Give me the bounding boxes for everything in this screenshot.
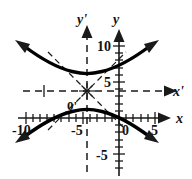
x-axis-label: x [175, 111, 183, 126]
x-tick-label--10: -10 [12, 123, 31, 138]
x-tick-label-5: 5 [151, 123, 158, 138]
x-axis [18, 112, 171, 124]
y-tick-label-10: 10 [97, 39, 111, 54]
hyperbola-lower-branch [15, 109, 159, 143]
origin-prime-label: 0' [67, 98, 77, 113]
upper-branch-left-arrowhead [15, 40, 30, 53]
y-axis-arrowhead [114, 29, 125, 42]
y-tick-label--5: -5 [96, 148, 108, 163]
hyperbola-figure: x' y' x y 0' -10 -5 0 5 10 5 -5 [0, 0, 192, 179]
upper-branch-right-arrowhead [144, 40, 159, 53]
x-prime-axis-label: x' [172, 84, 184, 99]
graph-canvas: x' y' x y 0' -10 -5 0 5 10 5 -5 [0, 0, 192, 179]
y-axis-label: y [111, 12, 120, 27]
x-tick-label--5: -5 [71, 123, 83, 138]
x-prime-axis [23, 85, 177, 97]
x-axis-arrowhead [158, 113, 171, 124]
x-tick-label-0: 0 [122, 123, 129, 138]
y-axis [113, 29, 125, 176]
y-prime-axis-label: y' [75, 12, 87, 27]
y-tick-label-5: 5 [104, 75, 111, 90]
